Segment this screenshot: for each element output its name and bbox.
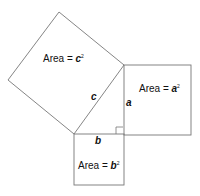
side-b-label: b	[95, 135, 101, 146]
area-a-label: Area = a2	[139, 83, 180, 94]
area-c-prefix: Area =	[43, 53, 76, 64]
area-c-exp: 2	[81, 53, 84, 59]
square-a	[124, 65, 191, 135]
area-b-exp: 2	[117, 160, 120, 166]
side-a-label: a	[126, 97, 132, 108]
area-b-label: Area = b2	[78, 160, 119, 171]
square-c	[8, 12, 124, 134]
area-a-prefix: Area =	[139, 83, 172, 94]
area-c-label: Area = c2	[43, 53, 84, 64]
area-b-prefix: Area =	[78, 160, 111, 171]
area-a-exp: 2	[177, 83, 180, 89]
right-angle-marker	[116, 127, 123, 134]
pythagoras-diagram: Area = c2 Area = a2 Area = b2 c a b	[0, 0, 200, 196]
side-c-label: c	[91, 91, 97, 102]
